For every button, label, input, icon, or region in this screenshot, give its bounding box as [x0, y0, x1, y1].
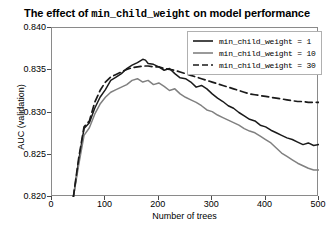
legend-swatch-solid-black-icon [192, 36, 214, 46]
legend-label-2: min_child_weight = 30 [219, 61, 316, 70]
legend-label-0: min_child_weight = 1 [219, 37, 311, 46]
legend: min_child_weight = 1 min_child_weight = … [187, 31, 322, 75]
series-line-2 [73, 66, 319, 197]
x-axis-label: Number of trees [51, 211, 318, 221]
chart-title-prefix: The effect of [24, 7, 91, 19]
legend-item-1: min_child_weight = 10 [192, 47, 316, 59]
x-tick-label-3: 300 [204, 199, 219, 209]
series-line-1 [73, 79, 319, 197]
series-line-0 [73, 59, 319, 197]
y-tick-label-0: 0.820 [2, 191, 46, 201]
chart-title: The effect of min_child_weight on model … [0, 7, 334, 20]
legend-item-0: min_child_weight = 1 [192, 35, 316, 47]
chart-title-param: min_child_weight [91, 8, 190, 20]
y-tick-label-1: 0.825 [2, 149, 46, 159]
y-tick-label-2: 0.830 [2, 107, 46, 117]
x-tick-label-0: 0 [48, 199, 53, 209]
y-tick-label-3: 0.835 [2, 64, 46, 74]
legend-swatch-dashed-black-icon [192, 60, 214, 70]
y-tick-label-4: 0.840 [2, 22, 46, 32]
legend-label-1: min_child_weight = 10 [219, 49, 316, 58]
y-axis-label: AUC (validation) [16, 57, 26, 177]
chart-figure: The effect of min_child_weight on model … [0, 0, 334, 227]
x-tick-label-1: 100 [97, 199, 112, 209]
x-tick-label-2: 200 [150, 199, 165, 209]
legend-item-2: min_child_weight = 30 [192, 59, 316, 71]
x-tick-label-4: 400 [257, 199, 272, 209]
x-tick-label-5: 500 [310, 199, 325, 209]
legend-swatch-solid-gray-icon [192, 48, 214, 58]
chart-title-suffix: on model performance [190, 7, 310, 19]
